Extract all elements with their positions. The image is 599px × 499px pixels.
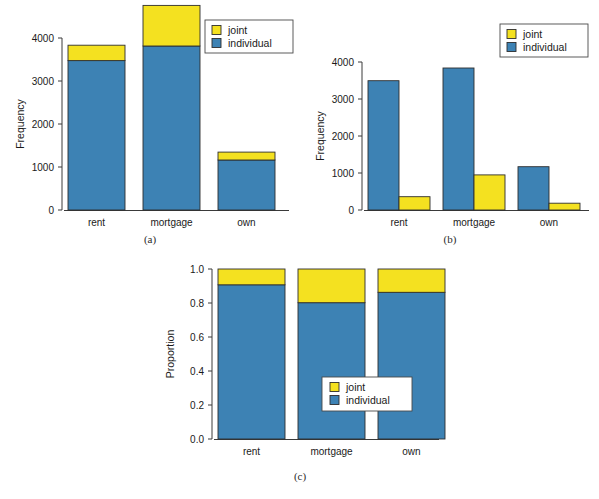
panel-a-legend-label-individual: individual	[228, 37, 272, 49]
panel-b-y-axis: 0 1000 2000 3000 4000	[332, 57, 362, 216]
panel-b-legend-label-joint: joint	[522, 28, 542, 40]
panel-c-ytick-label-1.0: 1.0	[190, 264, 204, 275]
panel-b-caption: (b)	[420, 233, 480, 245]
panel-c-bar-group-rent	[218, 269, 285, 439]
panel-c-legend-swatch-joint	[330, 383, 339, 392]
panel-c-caption: (c)	[270, 470, 330, 482]
panel-b-ytick-label-1000: 1000	[332, 168, 355, 179]
panel-c-ytick-label-0.4: 0.4	[190, 366, 204, 377]
panel-c-legend-label-individual: individual	[346, 394, 390, 406]
panel-c-proportion-chart: 0.0 0.2 0.4 0.6 0.8 1.0 Proportion rent …	[150, 255, 450, 470]
panel-b-legend-swatch-individual	[507, 43, 516, 52]
panel-c-ytick-label-0.0: 0.0	[190, 434, 204, 445]
panel-b-legend: joint individual	[500, 24, 588, 57]
panel-a-legend-swatch-individual	[212, 39, 221, 48]
panel-a-bar-mortgage-joint	[143, 5, 200, 46]
panel-c-y-axis: 0.0 0.2 0.4 0.6 0.8 1.0	[190, 264, 212, 445]
panel-a-caption: (a)	[120, 233, 180, 245]
panel-a-ytick-label-1000: 1000	[32, 162, 55, 173]
panel-a-legend: joint individual	[205, 20, 293, 53]
panel-b-legend-swatch-joint	[507, 30, 516, 39]
panel-a-bar-rent-individual	[68, 61, 125, 210]
panel-c-legend: joint individual	[322, 377, 412, 411]
panel-a-legend-label-joint: joint	[227, 24, 247, 36]
panel-c-bar-rent-individual	[218, 285, 285, 439]
panel-a-ytick-label-2000: 2000	[32, 119, 55, 130]
panel-c-svg: 0.0 0.2 0.4 0.6 0.8 1.0 Proportion rent …	[150, 255, 450, 470]
panel-b-bar-group-mortgage	[443, 68, 505, 210]
panel-c-legend-swatch-individual	[330, 396, 339, 405]
panel-b-bar-rent-joint	[399, 197, 430, 210]
panel-b-ytick-label-4000: 4000	[332, 57, 355, 68]
panel-c-bar-group-mortgage	[298, 269, 365, 439]
panel-a-ytick-label-4000: 4000	[32, 33, 55, 44]
panel-a-bar-mortgage-individual	[143, 46, 200, 210]
panel-c-bar-group-own	[378, 269, 445, 439]
panel-c-bar-mortgage-individual	[298, 303, 365, 439]
panel-a-ytick-label-0: 0	[48, 205, 54, 216]
panel-c-xtick-label-rent: rent	[243, 446, 260, 457]
panel-a-bar-rent-joint	[68, 45, 125, 60]
panel-b-xtick-label-own: own	[540, 217, 558, 228]
panel-b-xtick-label-mortgage: mortgage	[453, 217, 496, 228]
panel-a-bar-group-own	[218, 152, 275, 210]
panel-b-svg: 0 1000 2000 3000 4000 Frequency rent mor…	[300, 2, 599, 232]
panel-c-bar-own-individual	[378, 292, 445, 439]
panel-b-ytick-label-3000: 3000	[332, 94, 355, 105]
panel-a-xtick-label-own: own	[237, 217, 255, 228]
panel-c-ytick-label-0.6: 0.6	[190, 332, 204, 343]
panel-a-bar-own-joint	[218, 152, 275, 160]
panel-b-bar-group-rent	[368, 81, 430, 210]
panel-b-bar-mortgage-individual	[443, 68, 474, 210]
panel-b-legend-label-individual: individual	[523, 41, 567, 53]
panel-b-grouped-frequency-chart: 0 1000 2000 3000 4000 Frequency rent mor…	[300, 2, 599, 232]
panel-c-ytick-label-0.8: 0.8	[190, 298, 204, 309]
panel-a-ytick-label-3000: 3000	[32, 76, 55, 87]
panel-b-xtick-label-rent: rent	[390, 217, 407, 228]
panel-a-bar-group-rent	[68, 45, 125, 210]
panel-b-bar-mortgage-joint	[474, 175, 505, 210]
panel-a-bar-own-individual	[218, 160, 275, 210]
panel-a-y-axis-title: Frequency	[14, 98, 26, 148]
panel-a-y-axis: 0 1000 2000 3000 4000	[32, 33, 62, 216]
panel-c-bar-mortgage-joint	[298, 269, 365, 303]
panel-b-bar-group-own	[518, 167, 580, 210]
panel-c-xtick-label-mortgage: mortgage	[310, 446, 353, 457]
panel-c-xtick-label-own: own	[402, 446, 420, 457]
panel-b-y-axis-title: Frequency	[314, 110, 326, 160]
panel-a-xtick-label-mortgage: mortgage	[150, 217, 193, 228]
panel-b-bar-own-joint	[549, 203, 580, 210]
panel-a-xtick-label-rent: rent	[88, 217, 105, 228]
panel-c-y-axis-title: Proportion	[164, 330, 176, 379]
panel-c-bar-own-joint	[378, 269, 445, 292]
panel-a-bar-group-mortgage	[143, 5, 200, 210]
panel-a-legend-swatch-joint	[212, 26, 221, 35]
panel-b-ytick-label-2000: 2000	[332, 131, 355, 142]
panel-c-bar-rent-joint	[218, 269, 285, 285]
panel-b-bar-own-individual	[518, 167, 549, 210]
panel-a-stacked-frequency-chart: 0 1000 2000 3000 4000 Frequency rent mor…	[0, 2, 300, 232]
panel-c-legend-label-joint: joint	[345, 381, 365, 393]
panel-a-svg: 0 1000 2000 3000 4000 Frequency rent mor…	[0, 2, 300, 232]
panel-b-bar-rent-individual	[368, 81, 399, 210]
panel-c-ytick-label-0.2: 0.2	[190, 400, 204, 411]
panel-b-ytick-label-0: 0	[348, 205, 354, 216]
